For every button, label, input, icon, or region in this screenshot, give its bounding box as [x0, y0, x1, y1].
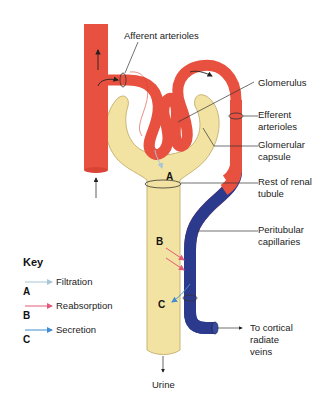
nephron-diagram: A B C Afferent arterioles Glomerulus Eff…: [0, 0, 322, 409]
legend-reabsorption: Reabsorption: [56, 300, 113, 311]
legend-letter-a: A: [23, 286, 30, 297]
legend-letter-c: C: [23, 334, 30, 345]
legend-title: Key: [23, 256, 44, 268]
label-capsule-2: capsule: [258, 151, 291, 162]
label-peritubular-2: capillaries: [258, 236, 300, 247]
label-afferent-arterioles: Afferent arterioles: [124, 30, 199, 41]
label-efferent-2: arterioles: [258, 121, 297, 132]
interlobular-artery: [84, 24, 108, 198]
legend-secretion: Secretion: [56, 324, 96, 335]
marker-c: C: [158, 299, 165, 310]
label-peritubular-1: Peritubular: [258, 224, 304, 235]
label-rest-2: tubule: [258, 188, 284, 199]
marker-b: B: [156, 236, 163, 247]
label-capsule-1: Glomerular: [258, 139, 305, 150]
label-glomerulus: Glomerulus: [258, 77, 307, 88]
label-veins-3: veins: [250, 346, 272, 357]
label-efferent-1: Efferent: [258, 109, 291, 120]
label-urine: Urine: [152, 379, 175, 390]
label-veins-2: radiate: [250, 334, 279, 345]
legend-letter-b: B: [23, 310, 30, 321]
legend: Key Filtration A Reabsorption B Secretio…: [23, 256, 113, 345]
label-rest-1: Rest of renal: [258, 176, 312, 187]
marker-a: A: [166, 171, 173, 182]
label-veins-1: To cortical: [250, 322, 293, 333]
legend-filtration: Filtration: [56, 276, 92, 287]
